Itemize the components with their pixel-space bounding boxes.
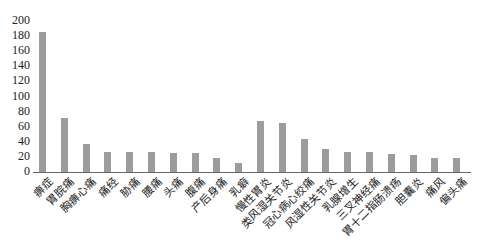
x-tick-label: 腰痛 [140,176,163,199]
bar-chart: 020406080100120140160180200 痹症胃脘痛胸痹心痛痛经胁… [0,0,481,245]
bar [279,123,286,172]
bar [257,121,264,172]
y-tick-label: 40 [0,135,30,147]
y-tick-label: 160 [0,44,30,56]
y-tick-label: 200 [0,14,30,26]
y-tick-label: 180 [0,29,30,41]
bar [83,144,90,172]
bar [192,153,199,172]
bar [61,118,68,172]
y-tick-label: 20 [0,150,30,162]
y-tick-label: 80 [0,105,30,117]
bar [322,149,329,172]
bar [148,152,155,172]
bar [410,155,417,172]
bar [388,154,395,172]
bar [366,152,373,172]
x-axis-line [33,172,471,173]
bar [104,152,111,172]
bar [344,152,351,172]
bar [235,163,242,172]
y-tick-label: 60 [0,120,30,132]
x-tick-label: 痛经 [96,176,119,199]
bar [431,158,438,172]
bar [453,158,460,172]
x-tick-label: 头痛 [162,176,185,199]
y-tick-label: 120 [0,74,30,86]
bar [213,158,220,172]
y-tick-label: 100 [0,90,30,102]
y-tick-label: 140 [0,59,30,71]
bar [301,139,308,172]
bar [170,153,177,172]
y-tick-label: 0 [0,165,30,177]
x-tick-label: 胁痛 [118,176,141,199]
bar [39,32,46,172]
bar [126,152,133,172]
